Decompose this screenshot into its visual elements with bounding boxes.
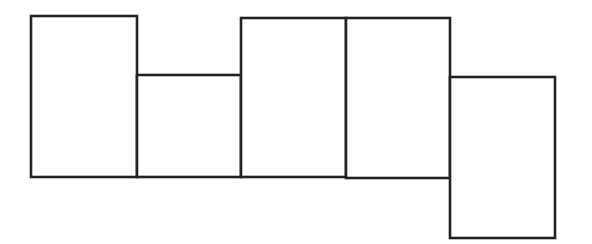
face-2 [137,75,241,177]
face-3 [241,18,346,177]
face-4 [346,18,450,178]
face-1 [31,16,137,177]
face-5 [450,77,555,238]
net-diagram [0,0,592,244]
